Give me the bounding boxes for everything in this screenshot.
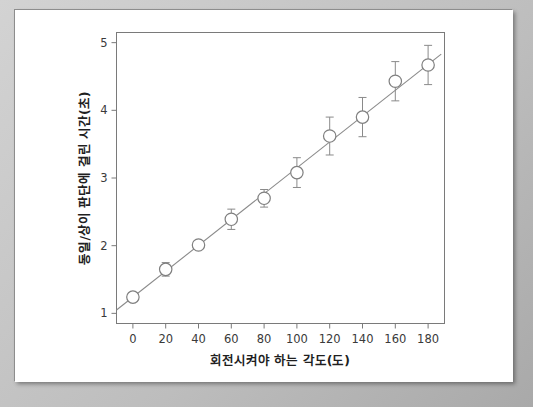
data-point-marker — [192, 239, 204, 251]
data-point-marker — [127, 291, 139, 303]
data-point-marker — [389, 75, 401, 87]
y-tick-label: 5 — [100, 36, 107, 50]
x-tick-label: 120 — [319, 332, 341, 346]
data-point-marker — [356, 111, 368, 123]
x-tick-label: 20 — [158, 332, 173, 346]
data-point-marker — [324, 130, 336, 142]
y-tick-label: 1 — [100, 306, 107, 320]
x-tick-label: 0 — [129, 332, 136, 346]
data-point-marker — [422, 59, 434, 71]
x-tick-label: 60 — [224, 332, 239, 346]
x-tick-label: 160 — [384, 332, 406, 346]
y-tick-label: 2 — [100, 239, 107, 253]
y-tick-label: 3 — [100, 171, 107, 185]
y-axis-title: 동일/상이 판단에 걸린 시간(초) — [77, 91, 92, 264]
x-tick-label: 140 — [352, 332, 374, 346]
data-point-marker — [160, 263, 172, 275]
x-axis-title: 회전시켜야 하는 각도(도) — [210, 353, 350, 368]
data-point-marker — [291, 166, 303, 178]
scatter-plot: 12345 020406080100120140160180 회전시켜야 하는 … — [15, 10, 513, 382]
x-tick-label: 40 — [191, 332, 206, 346]
x-tick-label: 180 — [417, 332, 439, 346]
data-point-marker — [225, 213, 237, 225]
y-tick-label: 4 — [100, 103, 107, 117]
data-point-marker — [258, 192, 270, 204]
chart-figure: 12345 020406080100120140160180 회전시켜야 하는 … — [15, 10, 513, 382]
figure-page: 12345 020406080100120140160180 회전시켜야 하는 … — [14, 9, 512, 381]
x-tick-label: 80 — [257, 332, 272, 346]
x-tick-label: 100 — [286, 332, 308, 346]
